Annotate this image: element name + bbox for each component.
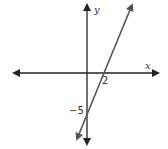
x-intercept-label: 2 (102, 75, 108, 86)
y-intercept-label: −5 (69, 105, 84, 116)
y-axis-label: y (93, 4, 100, 15)
coordinate-graph: y x 2 −5 (0, 0, 168, 149)
x-axis-label: x (145, 60, 151, 71)
function-line (77, 5, 132, 139)
